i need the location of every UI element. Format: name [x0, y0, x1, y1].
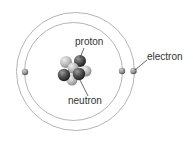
- proton-label: proton: [75, 37, 103, 47]
- proton-bottom-left: [58, 69, 70, 81]
- proton-bottom-right: [73, 68, 85, 80]
- electron-inner-right: [119, 68, 125, 74]
- neutron-leader: [80, 80, 88, 96]
- electron-outer-right: [130, 68, 136, 74]
- electron-left: [22, 69, 28, 75]
- atom-svg: [0, 0, 193, 144]
- electron-leader: [135, 60, 147, 70]
- nucleus: [58, 55, 92, 86]
- atom-diagram: proton neutron electron: [0, 0, 193, 144]
- electron-label: electron: [147, 52, 183, 62]
- neutron-label: neutron: [68, 96, 102, 106]
